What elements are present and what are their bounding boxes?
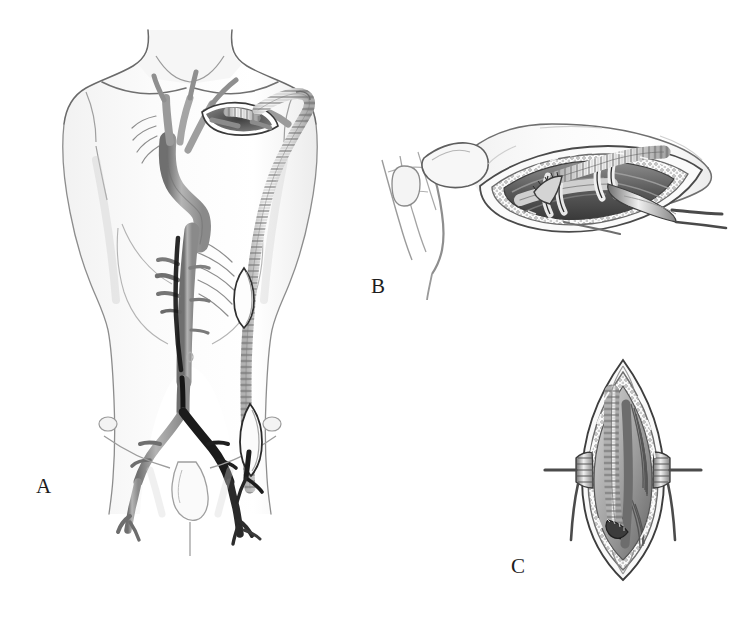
- panel-label-a: A: [36, 476, 51, 497]
- medical-figure: A B C: [0, 0, 741, 626]
- panel-label-c: C: [511, 556, 525, 577]
- illustration-canvas: [0, 0, 741, 626]
- panel-label-b: B: [371, 276, 385, 297]
- femoral-artery-c: [625, 404, 628, 544]
